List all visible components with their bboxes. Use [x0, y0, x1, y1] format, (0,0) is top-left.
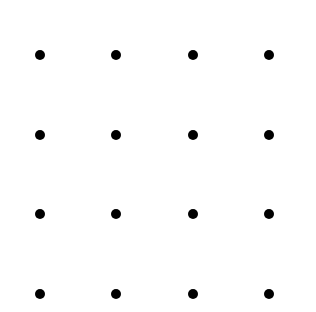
grid-dot: [264, 209, 274, 219]
grid-dot: [111, 289, 121, 299]
grid-dot: [264, 289, 274, 299]
dot-grid: [0, 0, 316, 312]
grid-dot: [35, 289, 45, 299]
grid-dot: [264, 130, 274, 140]
grid-dot: [188, 50, 198, 60]
grid-dot: [111, 209, 121, 219]
grid-dot: [188, 130, 198, 140]
grid-dot: [35, 130, 45, 140]
grid-dot: [188, 289, 198, 299]
grid-dot: [264, 50, 274, 60]
grid-dot: [35, 50, 45, 60]
grid-dot: [188, 209, 198, 219]
grid-dot: [111, 50, 121, 60]
grid-dot: [111, 130, 121, 140]
grid-dot: [35, 209, 45, 219]
